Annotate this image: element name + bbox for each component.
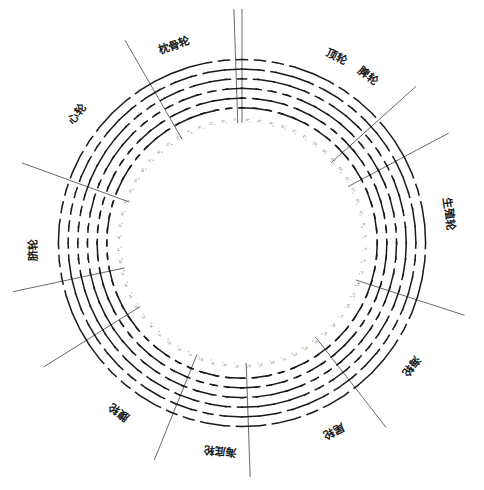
yang-line [358, 373, 372, 385]
yang-line [323, 89, 339, 98]
yin-line-left [403, 210, 404, 216]
yin-line-right [421, 201, 423, 207]
hexagram [59, 254, 110, 279]
yang-line [178, 394, 195, 400]
yang-line [372, 359, 384, 373]
yin-line-left [219, 415, 225, 416]
yin-line-left [213, 110, 219, 111]
yang-line [125, 358, 139, 370]
yin-line-left [368, 310, 371, 316]
codon-label: Aua [185, 350, 193, 358]
yin-line-left [61, 273, 62, 279]
yin-line-left [99, 267, 100, 273]
yin-line-right [395, 340, 398, 346]
yin-line-left [352, 108, 357, 112]
yin-line-left [150, 104, 156, 107]
hexagram [100, 327, 148, 373]
yin-line-left [88, 223, 89, 229]
yin-line-left [321, 121, 326, 125]
yin-line-right [260, 425, 266, 426]
yang-line [206, 423, 224, 426]
yin-line-left [350, 132, 354, 137]
yang-line [242, 426, 260, 427]
yin-line-left [328, 81, 334, 84]
sector-label-sector-weilun: 尾轮 [321, 421, 347, 443]
yin-line-right [339, 87, 345, 90]
wheel-canvas: AauAacAagCcuCccCcgGguGgcGggGgaCcaCauGauA… [0, 0, 484, 490]
yin-line-left [89, 136, 93, 141]
yin-line-left [260, 60, 266, 61]
hexagram [206, 375, 231, 426]
yin-line-left [59, 219, 60, 225]
yin-line-left [383, 301, 386, 307]
yin-line-left [323, 405, 329, 408]
yin-line-left [258, 70, 264, 71]
yang-line [155, 73, 172, 81]
yin-line-left [374, 297, 377, 303]
codon-label: Gca [139, 165, 147, 173]
yang-line [140, 396, 156, 405]
codon-label: Tgc [123, 198, 130, 205]
yin-line-left [306, 413, 312, 415]
codon-label: Cac [349, 292, 357, 300]
yin-line-left [383, 339, 387, 344]
sector-divider [13, 268, 125, 292]
yin-line-right [65, 190, 67, 196]
codon-label: Gcg [320, 330, 328, 338]
yin-line-left [71, 203, 73, 209]
yin-line-left [98, 179, 101, 185]
yang-line [105, 138, 116, 153]
yin-line-left [318, 98, 324, 101]
yang-line [289, 85, 306, 91]
yin-line-left [136, 154, 140, 159]
yang-line [241, 406, 259, 407]
yang-line [58, 225, 59, 243]
yang-line [273, 400, 291, 404]
yang-line [412, 208, 415, 226]
yang-line [376, 132, 387, 147]
codon-label: Gtc [120, 209, 127, 216]
yang-line [72, 156, 80, 173]
yang-line [384, 126, 395, 141]
yin-line-left [86, 320, 89, 326]
yin-line-left [365, 346, 369, 351]
yang-line [295, 67, 312, 73]
yin-line-left [326, 137, 331, 141]
yang-line [209, 404, 227, 407]
yin-line-left [202, 412, 208, 414]
yin-line-right [155, 405, 161, 408]
yin-line-left [121, 381, 126, 385]
yang-line [172, 67, 189, 73]
yin-line-left [225, 377, 231, 378]
yang-line [225, 88, 243, 89]
yin-line-left [122, 355, 126, 360]
yang-line [422, 207, 425, 225]
codon-label: Ggu [311, 140, 319, 148]
hexagram [206, 60, 231, 111]
codon-label: Cua [175, 344, 183, 352]
yin-line-left [80, 270, 81, 276]
yang-line [80, 329, 89, 345]
codon-label: Tag [116, 246, 122, 252]
yin-line-right [135, 90, 140, 94]
hexagram [266, 372, 296, 423]
sector-label-sector-qilun: 脐轮 [25, 239, 39, 262]
yin-line-left [393, 211, 394, 217]
yang-line [175, 76, 192, 82]
yin-line-left [90, 268, 91, 274]
yin-line-left [69, 220, 70, 226]
yin-line-right [61, 207, 62, 213]
yin-line-left [222, 396, 228, 397]
yang-line [378, 319, 387, 335]
sector-divider [246, 363, 250, 477]
yin-line-left [65, 290, 67, 296]
yin-line-right [272, 62, 278, 63]
yin-line-left [99, 211, 101, 217]
yin-line-left [146, 376, 151, 380]
codon-label: Tca [147, 156, 155, 164]
yin-line-left [113, 171, 116, 177]
yin-line-left [141, 384, 146, 388]
sector-label-sector-dinglun: 顶轮 [325, 45, 351, 67]
yin-line-left [392, 324, 395, 330]
codon-label: Aau [245, 117, 251, 123]
